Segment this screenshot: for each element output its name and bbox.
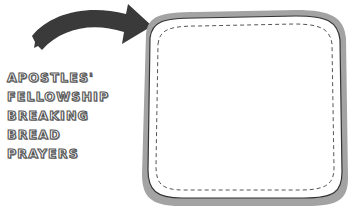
- word-bread: BREAD: [7, 125, 109, 144]
- word-apostles: APOSTLES': [7, 68, 109, 87]
- word-list: APOSTLES' FELLOWSHIP BREAKING BREAD PRAY…: [7, 68, 109, 163]
- drawing-frame: [136, 8, 352, 208]
- word-breaking: BREAKING: [7, 106, 109, 125]
- word-prayers: PRAYERS: [7, 144, 109, 163]
- word-fellowship: FELLOWSHIP: [7, 87, 109, 106]
